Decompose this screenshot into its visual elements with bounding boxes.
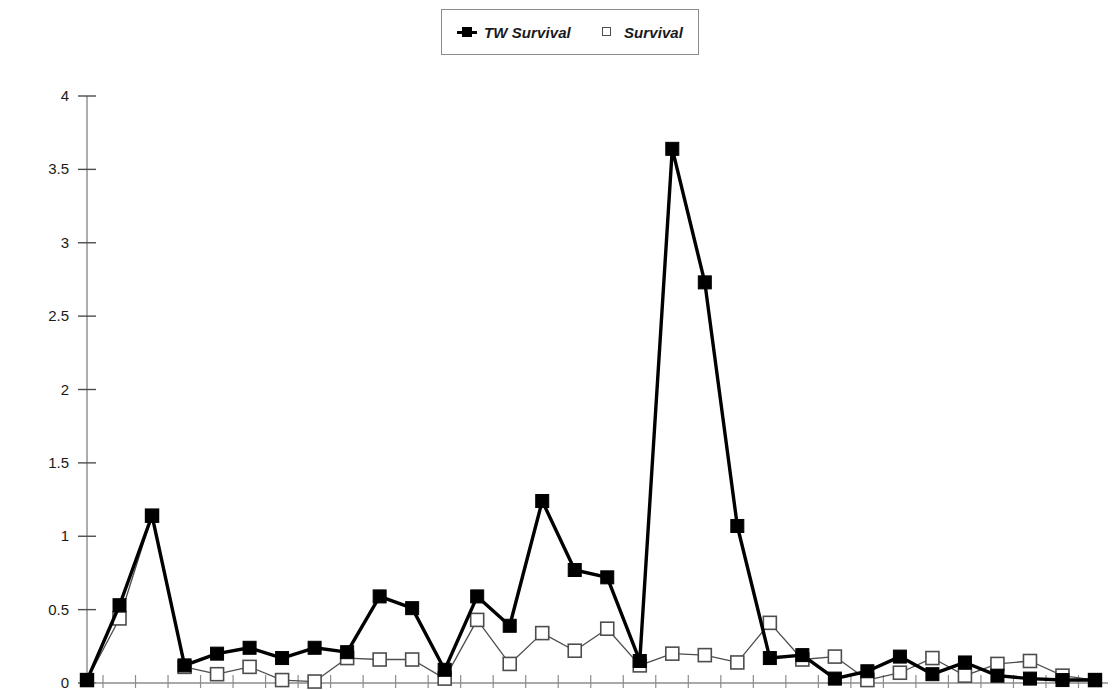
data-point-survival [763, 616, 776, 629]
data-point-tw-survival [1056, 674, 1069, 687]
data-point-tw-survival [633, 654, 646, 667]
data-point-survival [828, 650, 841, 663]
data-point-survival [698, 649, 711, 662]
data-point-tw-survival [958, 656, 971, 669]
chart-plot-area: 00.511.522.533.54 [0, 0, 1113, 690]
y-axis-tick-label: 0.5 [48, 601, 69, 618]
y-axis-tick-label: 4 [61, 87, 69, 104]
data-point-tw-survival [308, 641, 321, 654]
data-point-tw-survival [1089, 674, 1102, 687]
y-axis-tick-label: 2 [61, 381, 69, 398]
data-point-survival [601, 622, 614, 635]
data-point-survival [666, 647, 679, 660]
data-point-tw-survival [471, 590, 484, 603]
data-point-survival [276, 674, 289, 687]
y-axis-tick-label: 0 [61, 674, 69, 690]
data-point-survival [471, 613, 484, 626]
data-point-tw-survival [373, 590, 386, 603]
data-point-tw-survival [763, 652, 776, 665]
data-point-survival [568, 644, 581, 657]
data-point-tw-survival [146, 509, 159, 522]
data-point-tw-survival [731, 519, 744, 532]
data-point-tw-survival [926, 668, 939, 681]
data-point-tw-survival [828, 672, 841, 685]
y-axis-tick-label: 2.5 [48, 307, 69, 324]
data-point-survival [536, 627, 549, 640]
data-point-tw-survival [796, 649, 809, 662]
data-point-survival [893, 666, 906, 679]
data-point-tw-survival [276, 652, 289, 665]
y-axis-tick-label: 1 [61, 527, 69, 544]
data-point-tw-survival [178, 659, 191, 672]
data-point-survival [308, 675, 321, 688]
data-point-tw-survival [113, 599, 126, 612]
data-point-tw-survival [406, 602, 419, 615]
data-point-tw-survival [568, 564, 581, 577]
y-axis-tick-label: 3.5 [48, 160, 69, 177]
data-point-tw-survival [243, 641, 256, 654]
data-point-tw-survival [341, 646, 354, 659]
data-point-survival [991, 657, 1004, 670]
data-point-survival [406, 653, 419, 666]
data-point-tw-survival [666, 142, 679, 155]
chart-figure: TW Survival Survival 00.511.522.533.54 [0, 0, 1113, 690]
data-point-survival [731, 656, 744, 669]
data-point-tw-survival [1023, 672, 1036, 685]
data-point-survival [1023, 654, 1036, 667]
data-point-tw-survival [536, 495, 549, 508]
data-point-tw-survival [211, 647, 224, 660]
data-point-tw-survival [601, 571, 614, 584]
y-axis-tick-label: 1.5 [48, 454, 69, 471]
series-line-tw-survival [87, 149, 1095, 680]
data-point-tw-survival [991, 669, 1004, 682]
data-point-tw-survival [698, 276, 711, 289]
data-point-tw-survival [81, 674, 94, 687]
data-point-tw-survival [861, 665, 874, 678]
data-point-survival [958, 669, 971, 682]
data-point-survival [926, 652, 939, 665]
data-point-survival [503, 657, 516, 670]
data-point-survival [211, 668, 224, 681]
series-line-survival [87, 516, 1095, 682]
data-point-tw-survival [893, 650, 906, 663]
data-point-survival [373, 653, 386, 666]
data-point-survival [243, 660, 256, 673]
y-axis-tick-label: 3 [61, 234, 69, 251]
data-point-tw-survival [438, 663, 451, 676]
data-point-tw-survival [503, 619, 516, 632]
